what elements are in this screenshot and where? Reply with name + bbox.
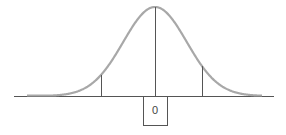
center-label: 0: [143, 104, 167, 116]
bell-curve: [27, 7, 262, 96]
